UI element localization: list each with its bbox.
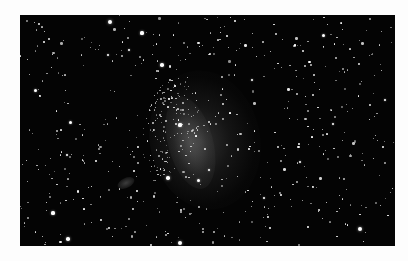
star xyxy=(379,44,380,45)
star xyxy=(180,145,182,147)
star xyxy=(291,206,292,207)
star xyxy=(299,161,302,164)
star xyxy=(317,107,319,109)
star xyxy=(224,235,225,236)
page xyxy=(0,0,408,261)
star xyxy=(352,142,354,144)
star xyxy=(38,169,39,170)
star xyxy=(95,160,97,162)
star xyxy=(310,64,312,66)
star xyxy=(290,199,291,200)
star xyxy=(319,118,320,119)
star xyxy=(192,93,193,94)
star xyxy=(343,44,344,45)
star xyxy=(90,47,91,48)
star xyxy=(155,78,156,79)
star xyxy=(67,178,68,179)
star xyxy=(219,39,220,40)
star xyxy=(327,158,329,160)
star xyxy=(223,212,224,213)
star xyxy=(128,218,130,220)
star xyxy=(48,38,50,40)
star xyxy=(185,59,186,60)
star xyxy=(197,42,199,44)
star xyxy=(369,18,371,20)
star xyxy=(57,138,58,139)
star xyxy=(339,71,340,72)
star xyxy=(121,228,123,230)
star xyxy=(199,46,200,47)
star xyxy=(260,177,261,178)
star xyxy=(108,227,110,229)
star xyxy=(224,26,225,27)
star xyxy=(144,157,145,158)
star xyxy=(297,119,298,120)
star xyxy=(302,200,303,201)
star xyxy=(217,17,218,18)
star xyxy=(363,241,364,242)
star xyxy=(108,189,110,191)
star xyxy=(60,154,61,155)
star xyxy=(152,122,154,124)
star xyxy=(160,63,164,67)
star xyxy=(177,108,178,109)
star xyxy=(100,197,101,198)
star xyxy=(112,60,113,61)
star xyxy=(342,29,343,30)
star xyxy=(188,163,189,164)
star xyxy=(369,119,370,120)
star xyxy=(207,19,208,20)
star xyxy=(146,32,147,33)
star xyxy=(252,33,253,34)
star xyxy=(263,197,266,200)
star xyxy=(169,65,171,67)
star xyxy=(213,47,214,48)
star xyxy=(62,75,63,76)
star xyxy=(274,68,275,69)
star xyxy=(180,211,182,213)
star xyxy=(27,202,28,203)
star xyxy=(268,208,269,209)
star xyxy=(88,187,89,188)
star xyxy=(114,228,115,229)
star xyxy=(51,67,52,68)
star xyxy=(137,115,138,116)
star xyxy=(217,228,218,229)
star xyxy=(346,104,347,105)
star xyxy=(66,186,67,187)
star xyxy=(165,152,167,154)
star xyxy=(21,208,22,209)
star xyxy=(110,90,111,91)
star xyxy=(296,76,297,77)
star xyxy=(155,107,156,108)
star xyxy=(323,153,325,155)
star xyxy=(327,24,328,25)
star xyxy=(347,111,348,112)
star xyxy=(176,113,177,114)
star xyxy=(379,175,380,176)
star xyxy=(35,50,36,51)
star xyxy=(198,206,200,208)
star xyxy=(239,48,240,49)
star xyxy=(112,161,113,162)
star xyxy=(56,134,57,135)
star xyxy=(231,155,232,156)
star xyxy=(374,75,375,76)
star xyxy=(195,135,196,136)
star xyxy=(146,225,147,226)
star xyxy=(29,74,30,75)
star xyxy=(352,108,353,109)
star xyxy=(82,134,83,135)
star xyxy=(153,45,154,46)
star xyxy=(137,201,138,202)
star xyxy=(325,150,326,151)
star xyxy=(108,20,112,24)
star xyxy=(266,241,268,243)
star xyxy=(304,166,305,167)
star xyxy=(136,190,138,192)
star xyxy=(264,55,265,56)
star xyxy=(373,93,374,94)
star xyxy=(43,41,45,43)
star xyxy=(382,146,384,148)
star xyxy=(99,45,100,46)
